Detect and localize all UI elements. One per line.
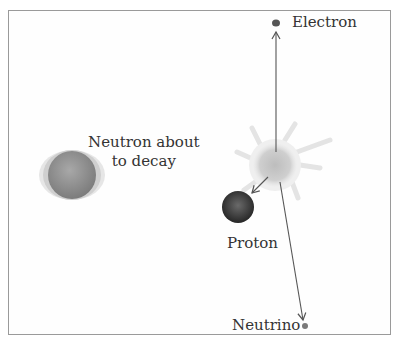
neutron-label-line-2: to decay <box>88 152 200 171</box>
proton-label: Proton <box>227 234 278 253</box>
neutrino-label: Neutrino <box>232 316 300 335</box>
neutron-label: Neutron about to decay <box>88 133 200 171</box>
proton-icon <box>222 191 254 223</box>
electron-icon <box>272 20 280 27</box>
neutron-label-line-1: Neutron about <box>88 133 200 152</box>
decay-burst-icon <box>237 124 330 198</box>
neutrino-icon <box>302 323 308 329</box>
electron-label: Electron <box>292 13 357 32</box>
decay-scene <box>0 0 400 347</box>
neutrino-arrow <box>280 182 303 320</box>
